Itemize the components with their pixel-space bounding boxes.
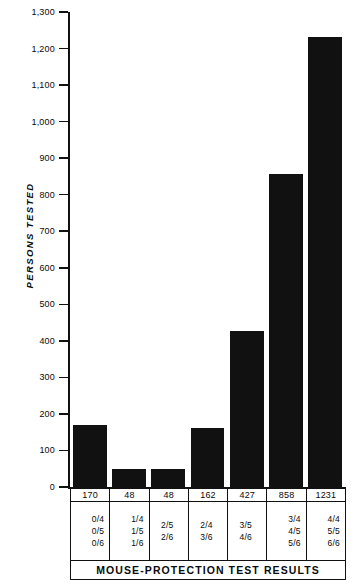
fraction-value: 1/5 <box>112 525 143 537</box>
bar-858 <box>269 174 303 488</box>
persons-tested-cell: 162 <box>188 488 227 502</box>
persons-tested-cell: 48 <box>110 488 149 502</box>
fraction-value: 4/6 <box>230 531 261 543</box>
persons-tested-cell: 427 <box>228 488 267 502</box>
y-tick-300: 300 <box>59 377 68 379</box>
y-tick-600: 600 <box>59 267 68 269</box>
mouse-protection-cell: 2/43/6 <box>188 502 227 561</box>
fraction-value: 0/4 <box>73 513 104 525</box>
mouse-protection-cell: 3/54/6 <box>228 502 267 561</box>
y-tick-label: 1,300 <box>31 7 55 17</box>
y-tick-label: 0 <box>50 482 55 492</box>
results-table: 17048481624278581231 0/40/50/61/41/51/62… <box>70 487 346 580</box>
y-tick-500: 500 <box>59 304 68 306</box>
y-tick-800: 800 <box>59 194 68 196</box>
fraction-value: 1/4 <box>112 513 143 525</box>
bars-group <box>70 12 345 487</box>
fraction-value: 4/5 <box>269 525 300 537</box>
bar-1231 <box>308 37 342 487</box>
y-tick-1200: 1,200 <box>59 48 68 50</box>
y-tick-label: 1,000 <box>31 117 55 127</box>
table-row-fractions: 0/40/50/61/41/51/62/52/62/43/63/54/63/44… <box>71 502 346 561</box>
y-tick-label: 800 <box>39 190 55 200</box>
y-tick-700: 700 <box>59 230 68 232</box>
fraction-value: 3/5 <box>230 519 261 531</box>
y-tick-0: 0 <box>59 486 68 488</box>
y-tick-label: 1,100 <box>31 80 55 90</box>
y-tick-label: 500 <box>39 299 55 309</box>
y-tick-400: 400 <box>59 340 68 342</box>
fraction-value: 3/4 <box>269 513 300 525</box>
y-tick-100: 100 <box>59 450 68 452</box>
y-tick-200: 200 <box>59 413 68 415</box>
y-axis-label: PERSONS TESTED <box>24 161 35 311</box>
y-tick-label: 100 <box>39 445 55 455</box>
y-tick-label: 600 <box>39 263 55 273</box>
y-tick-1300: 1,300 <box>59 11 68 13</box>
fraction-value: 3/6 <box>191 531 222 543</box>
mouse-protection-cell: 1/41/51/6 <box>110 502 149 561</box>
y-tick-1100: 1,100 <box>59 84 68 86</box>
persons-tested-cell: 1231 <box>306 488 345 502</box>
y-tick-label: 1,200 <box>31 44 55 54</box>
bar-170 <box>73 425 107 487</box>
y-tick-label: 400 <box>39 336 55 346</box>
y-tick-label: 300 <box>39 372 55 382</box>
table-row-footer: MOUSE-PROTECTION TEST RESULTS <box>71 561 346 580</box>
fraction-value: 2/4 <box>191 519 222 531</box>
fraction-value: 6/6 <box>309 537 340 549</box>
plot-area: 01002003004005006007008009001,0001,1001,… <box>68 12 345 487</box>
fraction-value: 0/6 <box>73 537 104 549</box>
chart-footer-title: MOUSE-PROTECTION TEST RESULTS <box>71 561 346 580</box>
mouse-protection-cell: 3/44/55/6 <box>267 502 306 561</box>
persons-tested-cell: 170 <box>71 488 110 502</box>
bar-48 <box>112 469 146 487</box>
y-tick-label: 200 <box>39 409 55 419</box>
y-tick-label: 700 <box>39 226 55 236</box>
fraction-value: 4/4 <box>309 513 340 525</box>
fraction-value: 2/5 <box>152 519 183 531</box>
mouse-protection-cell: 2/52/6 <box>149 502 188 561</box>
fraction-value: 2/6 <box>152 531 183 543</box>
y-tick-900: 900 <box>59 157 68 159</box>
table-row-values: 17048481624278581231 <box>71 488 346 502</box>
bar-48 <box>151 469 185 487</box>
fraction-value: 5/6 <box>269 537 300 549</box>
mouse-protection-cell: 0/40/50/6 <box>71 502 110 561</box>
persons-tested-cell: 48 <box>149 488 188 502</box>
fraction-value: 0/5 <box>73 525 104 537</box>
bar-427 <box>230 331 264 487</box>
bar-chart-figure: PERSONS TESTED 0100200300400500600700800… <box>0 0 361 588</box>
fraction-value: 1/6 <box>112 537 143 549</box>
y-tick-label: 900 <box>39 153 55 163</box>
y-tick-1000: 1,000 <box>59 121 68 123</box>
persons-tested-cell: 858 <box>267 488 306 502</box>
fraction-value: 5/5 <box>309 525 340 537</box>
mouse-protection-cell: 4/45/56/6 <box>306 502 345 561</box>
bar-162 <box>191 428 225 487</box>
